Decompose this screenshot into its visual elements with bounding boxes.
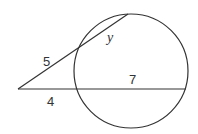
lower-internal-length-label: 7 (129, 72, 136, 87)
upper-secant-line (18, 14, 128, 89)
secant-diagram: 5 y 4 7 (0, 0, 198, 134)
circle (74, 14, 188, 128)
upper-internal-length-label: y (105, 30, 114, 45)
lower-external-length-label: 4 (47, 94, 54, 109)
upper-external-length-label: 5 (43, 54, 50, 69)
